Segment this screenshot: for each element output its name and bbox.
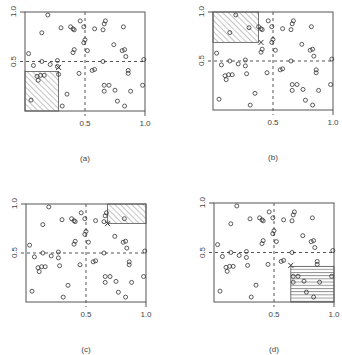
data-point: [229, 222, 233, 226]
data-point: [261, 219, 265, 223]
panel-caption-d: (d): [254, 345, 294, 354]
data-point: [218, 289, 222, 293]
data-point: [237, 253, 241, 257]
data-point: [301, 234, 305, 238]
data-point: [315, 262, 319, 266]
data-point: [274, 240, 278, 244]
data-point: [282, 218, 286, 222]
data-point: [313, 246, 317, 250]
data-point: [216, 243, 220, 247]
data-point: [220, 254, 224, 258]
data-point: [267, 210, 271, 214]
y-tick-label: 0.5: [198, 242, 207, 262]
data-point: [235, 204, 239, 208]
data-point: [310, 216, 314, 220]
scatter-panel-d: [0, 0, 342, 355]
y-tick-label: 1.0: [198, 193, 207, 213]
data-point: [282, 258, 286, 262]
data-point: [225, 269, 229, 273]
data-point: [249, 295, 253, 299]
data-point: [309, 240, 313, 244]
x-tick-label: 0.5: [264, 310, 284, 319]
data-point: [254, 283, 258, 287]
data-point: [248, 217, 252, 221]
data-point: [279, 259, 283, 263]
data-point: [246, 263, 250, 267]
data-point: [244, 255, 248, 259]
data-point: [266, 262, 270, 266]
x-tick-label: 1.0: [324, 310, 342, 319]
data-point: [312, 239, 316, 243]
data-point: [290, 219, 294, 223]
shaded-region: [291, 266, 334, 302]
